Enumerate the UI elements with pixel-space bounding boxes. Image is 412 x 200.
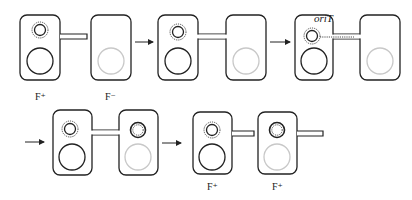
conjugation-diagram: F⁺ F⁻ oriT (0, 0, 412, 200)
pilus (60, 34, 87, 39)
label-donor-initial: F⁺ (35, 91, 46, 102)
label-recipient-final: F⁺ (272, 181, 283, 192)
pilus (232, 131, 254, 136)
pilus (297, 131, 323, 136)
label-donor-final: F⁺ (207, 181, 218, 192)
stage-5: F⁺ F⁺ (193, 112, 323, 192)
label-oriT: oriT (314, 12, 334, 24)
recipient-cell (91, 15, 131, 80)
donor-cell (20, 15, 60, 80)
stage-3: oriT (295, 12, 400, 80)
stage-4 (53, 110, 158, 175)
stage-1: F⁺ F⁻ (20, 15, 131, 102)
label-recipient-initial: F⁻ (105, 91, 116, 102)
stage-2 (158, 15, 266, 80)
